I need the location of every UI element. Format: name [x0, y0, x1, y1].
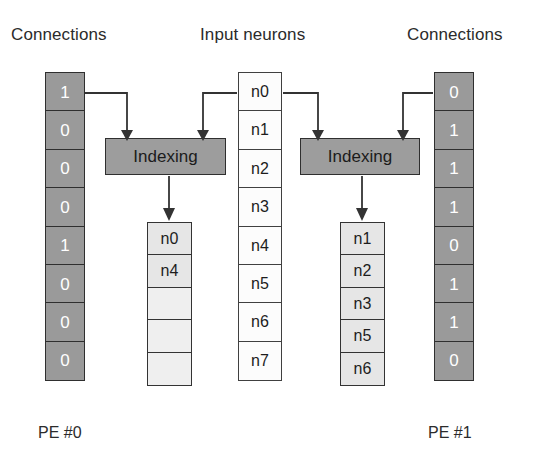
connection-bit-cell: 1 — [434, 187, 474, 227]
arrow-neurons-to-indexing-right — [283, 93, 324, 141]
connection-bit-cell: 1 — [434, 302, 474, 342]
input-neuron-cell: n0 — [238, 72, 282, 112]
connection-bit-cell: 1 — [434, 110, 474, 150]
connection-bit-cell: 1 — [434, 264, 474, 304]
connection-bit-cell: 0 — [434, 72, 474, 112]
connection-bit-cell: 1 — [45, 226, 85, 266]
connection-bit-cell: 0 — [45, 110, 85, 150]
indexed-result-cell-empty — [147, 352, 192, 386]
header-connections-right: Connections — [407, 25, 503, 45]
connection-bit-cell: 0 — [45, 264, 85, 304]
indexing-diagram: Connections Input neurons Connections 1 … — [0, 0, 539, 468]
input-neuron-cell: n7 — [238, 341, 282, 381]
input-neuron-cell: n2 — [238, 149, 282, 189]
arrow-indexing-right-to-result — [356, 176, 368, 221]
connection-bit-cell: 1 — [45, 72, 85, 112]
input-neurons-column: n0 n1 n2 n3 n4 n5 n6 n7 — [238, 72, 282, 381]
indexed-result-cell: n2 — [340, 254, 385, 288]
arrow-connections-right-to-indexing — [397, 93, 433, 141]
input-neuron-cell: n3 — [238, 187, 282, 227]
footer-label-pe0: PE #0 — [38, 424, 82, 442]
connection-bit-cell: 1 — [434, 149, 474, 189]
indexed-result-cell: n0 — [147, 222, 192, 256]
indexed-result-cell: n5 — [340, 319, 385, 353]
connection-bits-column-left: 1 0 0 0 1 0 0 0 — [45, 72, 85, 381]
indexed-result-column-right: n1 n2 n3 n5 n6 — [340, 222, 385, 386]
indexed-result-cell-empty — [147, 287, 192, 321]
input-neuron-cell: n4 — [238, 226, 282, 266]
connection-bit-cell: 0 — [45, 341, 85, 381]
connection-bit-cell: 0 — [45, 187, 85, 227]
indexed-result-column-left: n0 n4 — [147, 222, 192, 386]
indexed-result-cell: n6 — [340, 352, 385, 386]
connection-bit-cell: 0 — [45, 149, 85, 189]
input-neuron-cell: n6 — [238, 302, 282, 342]
arrow-indexing-left-to-result — [163, 176, 175, 221]
indexed-result-cell-empty — [147, 319, 192, 353]
connection-bit-cell: 0 — [434, 341, 474, 381]
connection-bit-cell: 0 — [434, 226, 474, 266]
arrow-connections-left-to-indexing — [85, 93, 133, 141]
indexing-box-left: Indexing — [105, 138, 226, 175]
input-neuron-cell: n5 — [238, 264, 282, 304]
indexed-result-cell: n1 — [340, 222, 385, 256]
input-neuron-cell: n1 — [238, 110, 282, 150]
indexing-box-right: Indexing — [300, 138, 420, 175]
connection-bit-cell: 0 — [45, 302, 85, 342]
connection-bits-column-right: 0 1 1 1 0 1 1 0 — [434, 72, 474, 381]
header-input-neurons: Input neurons — [200, 25, 305, 45]
indexed-result-cell: n3 — [340, 287, 385, 321]
header-connections-left: Connections — [11, 25, 107, 45]
footer-label-pe1: PE #1 — [428, 424, 472, 442]
arrow-neurons-to-indexing-left — [197, 93, 237, 141]
indexed-result-cell: n4 — [147, 254, 192, 288]
